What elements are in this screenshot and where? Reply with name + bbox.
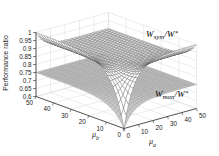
surface-plot-canvas: 0.60.650.70.750.80.850.90.95101020304050… — [0, 0, 219, 156]
x-axis-subscript: a — [153, 142, 156, 148]
wmon-base: W — [155, 89, 163, 99]
y-tick-label: 20 — [79, 118, 87, 125]
z-tick-label: 0.95 — [19, 37, 32, 44]
surface-plot-figure: 0.60.650.70.750.80.850.90.95101020304050… — [0, 0, 219, 156]
z-tick-label: 0.65 — [19, 85, 32, 92]
wsym-sub: sym — [154, 33, 165, 40]
z-tick-label: 0.75 — [19, 69, 32, 76]
wmon-sup: * — [185, 89, 188, 96]
x-tick-label: 50 — [199, 112, 207, 119]
y-tick-label: 0 — [117, 131, 121, 138]
wsym-base: W — [146, 29, 154, 39]
x-tick-label: 0 — [127, 132, 131, 139]
wsym-surface-label: Wsym/W* — [146, 29, 178, 39]
x-axis-label: μa — [149, 137, 156, 146]
wmon-surface-label: Wmon/W* — [155, 89, 188, 99]
y-axis-label: μb — [92, 130, 99, 139]
z-tick-label: 0.7 — [23, 77, 32, 84]
x-tick-label: 30 — [170, 120, 178, 127]
x-tick-label: 40 — [185, 116, 193, 123]
y-tick-label: 40 — [44, 105, 52, 112]
y-axis-subscript: b — [96, 135, 99, 141]
z-tick-label: 0.85 — [19, 53, 32, 60]
wmon-sub: mon — [163, 93, 175, 100]
z-tick-label: 0.8 — [23, 61, 32, 68]
y-tick-label: 50 — [26, 99, 34, 106]
z-tick-label: 0.9 — [23, 45, 32, 52]
wsym-sup: * — [175, 29, 178, 36]
x-tick-label: 20 — [156, 124, 164, 131]
y-tick-label: 30 — [61, 112, 69, 119]
wsym-denom: /W — [164, 29, 174, 39]
z-tick-label: 1 — [28, 29, 32, 36]
z-axis-label: Performance ratio — [2, 28, 12, 98]
wmon-denom: /W — [175, 89, 185, 99]
x-tick-label: 10 — [141, 128, 149, 135]
